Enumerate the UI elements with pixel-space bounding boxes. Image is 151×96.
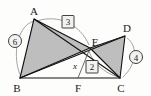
vertex-label-a: A (30, 5, 38, 17)
vertex-label-f: F (75, 82, 81, 94)
vertex-label-d: D (123, 22, 131, 34)
vertex-label-c: C (117, 82, 124, 94)
triangle-abe (20, 19, 90, 78)
geometry-figure: A B C D E F x 6 3 4 2 (0, 0, 151, 96)
vertex-label-b: B (13, 82, 20, 94)
measure-ab-label: 6 (13, 37, 18, 47)
angle-label-x: x (72, 61, 77, 71)
geometry-canvas: A B C D E F x 6 3 4 2 (0, 0, 151, 96)
measure-dc-label: 4 (134, 53, 139, 63)
vertex-label-e: E (92, 36, 99, 48)
measure-ec-label: 2 (90, 62, 95, 72)
measure-ae-label: 3 (66, 17, 71, 27)
